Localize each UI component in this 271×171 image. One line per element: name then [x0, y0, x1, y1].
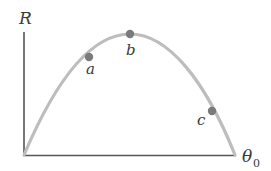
point-b — [126, 30, 134, 38]
point-b-label: b — [126, 41, 136, 59]
range-diagram: R a b c θ 0 — [0, 0, 271, 171]
point-c — [208, 107, 216, 115]
point-a-label: a — [86, 60, 95, 78]
y-axis-label: R — [18, 8, 32, 28]
point-c-label: c — [197, 111, 206, 129]
x-axis-label: θ — [242, 146, 252, 166]
x-axis-label-subscript: 0 — [253, 157, 260, 170]
